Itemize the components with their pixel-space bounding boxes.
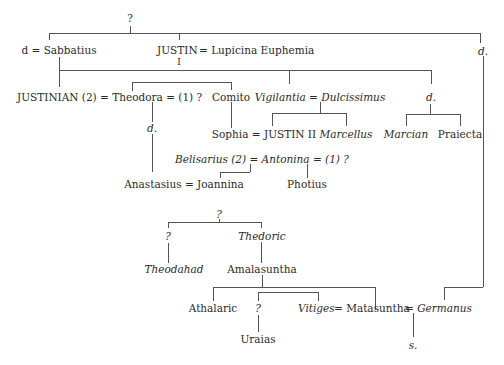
uraias-unknown-parent: ? bbox=[255, 302, 261, 314]
vigilantia-dulcissimus-couple: Vigilantia = Dulcissimus bbox=[255, 91, 386, 103]
belisarius-antonina-couple: Belisarius (2) = Antonina = (1) ? bbox=[175, 153, 349, 165]
marcellus: Marcellus bbox=[320, 128, 373, 140]
justin-i-name: JUSTIN bbox=[157, 44, 198, 56]
d-sabbatius-couple: d = Sabbatius bbox=[21, 44, 96, 56]
comito: Comito bbox=[212, 91, 250, 103]
anastasius-joannina-couple: Anastasius = Joannina bbox=[124, 178, 244, 190]
d-right-daughter: d. bbox=[478, 45, 488, 57]
justinian-theodora-couple: JUSTINIAN (2) = Theodora = (1) ? bbox=[17, 91, 202, 103]
sophia-justin-ii-couple: Sophia = JUSTIN II bbox=[212, 128, 316, 140]
matasuntha: = Matasuntha bbox=[334, 302, 410, 314]
thedoric: Thedoric bbox=[238, 230, 285, 242]
d-theodora-daughter: d. bbox=[147, 122, 157, 134]
family-tree-diagram: ? d = Sabbatius JUSTIN I = Lupicina Euph… bbox=[0, 0, 504, 365]
gothic-root-unknown: ? bbox=[216, 208, 222, 220]
vitiges: Vitiges bbox=[298, 302, 335, 314]
theodahad: Theodahad bbox=[144, 263, 203, 275]
justin-regnal-numeral: I bbox=[177, 56, 181, 68]
germanus: = Germanus bbox=[405, 302, 472, 314]
marcian: Marcian bbox=[384, 128, 428, 140]
root-unknown-ancestor: ? bbox=[127, 12, 133, 24]
uraias: Uraias bbox=[240, 333, 275, 345]
athalaric: Athalaric bbox=[189, 302, 238, 314]
unknown-left-ancestor: ? bbox=[165, 230, 171, 242]
photius: Photius bbox=[287, 178, 327, 190]
s-son: s. bbox=[409, 339, 418, 351]
praiecta: Praiecta bbox=[438, 128, 482, 140]
lupicina-euphemia-spouse: = Lupicina Euphemia bbox=[199, 44, 314, 56]
d-mid-daughter: d. bbox=[426, 91, 436, 103]
amalasuntha: Amalasuntha bbox=[227, 263, 297, 275]
